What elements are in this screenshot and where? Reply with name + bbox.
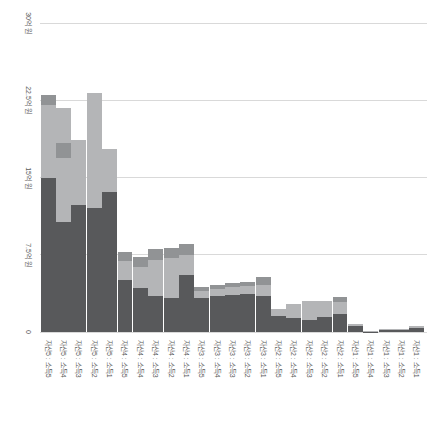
x-tick-label: 자산4 : 소득4: [136, 340, 145, 378]
light-gray-middle-segment: [286, 304, 301, 318]
x-tick-label: 자산3 : 소득3: [228, 340, 237, 378]
x-tick-label: 자산1 : 소득5: [351, 340, 360, 378]
light-gray-middle-segment: [194, 291, 209, 298]
bar-자산5 : 소득3: [71, 140, 86, 332]
light-gray-middle-segment: [179, 255, 194, 275]
bar-자산5 : 소득5: [41, 95, 56, 332]
bar-자산1 : 소득5: [348, 324, 363, 332]
x-tick-label: 자산5 : 소득4: [59, 340, 68, 378]
x-tick-label: 자산5 : 소득3: [74, 340, 83, 378]
gridline-30: [40, 23, 427, 24]
dark-gray-bottom-segment: [348, 326, 363, 332]
bar-자산4 : 소득4: [133, 257, 148, 332]
medium-gray-cap-segment: [118, 252, 133, 261]
bar-자산3 : 소득2: [240, 282, 255, 332]
x-tick-label: 자산5 : 소득5: [44, 340, 53, 378]
bar-자산4 : 소득2: [164, 248, 179, 332]
dark-gray-bottom-segment: [56, 222, 71, 332]
dark-gray-bottom-segment: [179, 275, 194, 332]
bar-자산2 : 소득5: [271, 309, 286, 332]
x-tick-label: 자산1 : 소득4: [366, 340, 375, 378]
x-tick-label: 자산4 : 소득2: [167, 340, 176, 378]
dark-gray-bottom-segment: [286, 318, 301, 332]
medium-gray-cap-segment: [256, 277, 271, 285]
light-gray-middle-segment: [118, 261, 133, 279]
dark-gray-bottom-segment: [87, 208, 102, 332]
bar-자산3 : 소득1: [256, 277, 271, 332]
dark-gray-bottom-segment: [317, 317, 332, 332]
dark-gray-bottom-segment: [379, 330, 394, 332]
y-tick-label: 15억 원: [24, 167, 33, 189]
bar-자산2 : 소득4: [286, 304, 301, 332]
x-tick-label: 자산5 : 소득1: [105, 340, 114, 378]
dark-gray-bottom-segment: [148, 296, 163, 332]
bar-자산4 : 소득5: [118, 252, 133, 332]
dark-gray-bottom-segment: [409, 328, 424, 332]
x-tick-label: 자산2 : 소득3: [305, 340, 314, 378]
light-gray-middle-segment: [41, 105, 56, 178]
dark-gray-bottom-segment: [118, 280, 133, 332]
dark-gray-bottom-segment: [240, 294, 255, 332]
dark-gray-bottom-segment: [41, 178, 56, 332]
x-tick-label: 자산1 : 소득1: [412, 340, 421, 378]
bar-자산2 : 소득2: [317, 301, 332, 332]
x-tick-label: 자산4 : 소득1: [182, 340, 191, 378]
bar-자산5 : 소득1: [102, 149, 117, 332]
light-gray-middle-segment: [256, 285, 271, 297]
light-gray-middle-segment: [240, 286, 255, 294]
bar-자산4 : 소득3: [148, 249, 163, 332]
dark-gray-bottom-segment: [71, 205, 86, 332]
x-tick-label: 자산5 : 소득2: [90, 340, 99, 378]
stacked-bar-chart: 07.5억 원15억 원22.5억 원30억 원 자산5 : 소득5자산5 : …: [0, 0, 444, 427]
bar-자산1 : 소득3: [379, 329, 394, 332]
light-gray-middle-segment: [271, 309, 286, 317]
light-gray-middle-segment: [225, 287, 240, 295]
dark-gray-bottom-segment: [133, 288, 148, 332]
x-tick-label: 자산3 : 소득4: [213, 340, 222, 378]
bar-자산5 : 소득4: [56, 108, 71, 332]
light-gray-middle-segment: [56, 158, 71, 222]
bar-자산1 : 소득2: [394, 329, 409, 333]
x-tick-label: 자산2 : 소득1: [336, 340, 345, 378]
light-gray-middle-segment: [102, 149, 117, 192]
dark-gray-bottom-segment: [302, 320, 317, 332]
dark-gray-bottom-segment: [333, 314, 348, 332]
x-tick-label: 자산2 : 소득2: [320, 340, 329, 378]
dark-gray-bottom-segment: [210, 296, 225, 332]
y-tick-label: 30억 원: [24, 12, 33, 34]
x-tick-label: 자산3 : 소득2: [243, 340, 252, 378]
x-tick-label: 자산2 : 소득4: [289, 340, 298, 378]
light-gray-middle-segment: [133, 267, 148, 288]
bar-자산3 : 소득5: [194, 287, 209, 332]
y-tick-label: 7.5억 원: [24, 243, 33, 267]
x-tick-label: 자산1 : 소득3: [382, 340, 391, 378]
y-tick-label: 22.5억 원: [24, 86, 33, 114]
bar-자산2 : 소득3: [302, 301, 317, 332]
medium-gray-cap-segment: [56, 143, 71, 158]
bar-자산1 : 소득1: [409, 326, 424, 332]
x-tick-label: 자산4 : 소득3: [151, 340, 160, 378]
bar-자산4 : 소득1: [179, 244, 194, 332]
medium-gray-cap-segment: [133, 257, 148, 267]
dark-gray-bottom-segment: [256, 296, 271, 332]
dark-gray-bottom-segment: [164, 298, 179, 332]
dark-gray-bottom-segment: [194, 298, 209, 332]
x-tick-label: 자산4 : 소득5: [120, 340, 129, 378]
x-tick-label: 자산3 : 소득5: [197, 340, 206, 378]
light-gray-middle-segment: [87, 93, 102, 208]
light-gray-middle-segment: [210, 289, 225, 296]
medium-gray-cap-segment: [179, 244, 194, 255]
light-gray-middle-segment: [148, 260, 163, 296]
medium-gray-cap-segment: [164, 248, 179, 258]
bar-자산5 : 소득2: [87, 93, 102, 332]
light-gray-middle-segment: [302, 301, 317, 320]
light-gray-middle-segment: [164, 258, 179, 298]
dark-gray-bottom-segment: [394, 330, 409, 332]
dark-gray-bottom-segment: [102, 192, 117, 332]
light-gray-top-segment: [56, 108, 71, 143]
y-tick-label: 0: [24, 330, 33, 334]
x-tick-label: 자산1 : 소득2: [397, 340, 406, 378]
light-gray-middle-segment: [333, 302, 348, 314]
medium-gray-cap-segment: [41, 95, 56, 105]
bar-자산1 : 소득4: [363, 331, 378, 332]
